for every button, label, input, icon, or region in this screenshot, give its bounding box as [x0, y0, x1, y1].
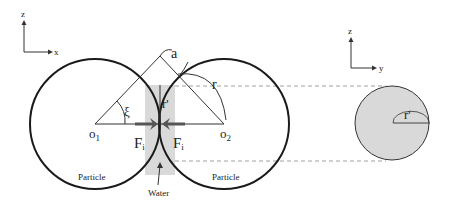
axis-right-horizontal-arrow: [372, 66, 377, 71]
label-water: Water: [148, 188, 169, 198]
label-r-prime: r': [162, 96, 169, 111]
axis-left-horizontal-arrow: [48, 50, 53, 55]
axis-right-vertical-arrow: [349, 37, 354, 42]
particle-bridge-diagram: z x z y a r r' ξ o1 o2 Fi Fi Particle Pa…: [0, 0, 450, 206]
label-xi: ξ: [124, 104, 130, 119]
label-particle-right: Particle: [212, 172, 240, 182]
label-fi-right: Fi: [173, 135, 184, 152]
axis-left-z-label: z: [21, 9, 25, 19]
axis-right-z-label: z: [348, 26, 352, 36]
label-cross-section-r-prime: r': [404, 107, 411, 122]
label-fi-left: Fi: [134, 135, 145, 152]
label-particle-left: Particle: [78, 172, 106, 182]
label-o2: o2: [220, 126, 231, 143]
label-r: r: [212, 77, 217, 92]
axis-right-y-label: y: [379, 63, 384, 73]
label-a: a: [171, 46, 178, 61]
axis-left-vertical-arrow: [22, 20, 27, 25]
label-o1: o1: [89, 126, 100, 143]
r-dimension-arc: [178, 74, 226, 120]
axis-left-x-label: x: [54, 47, 59, 57]
